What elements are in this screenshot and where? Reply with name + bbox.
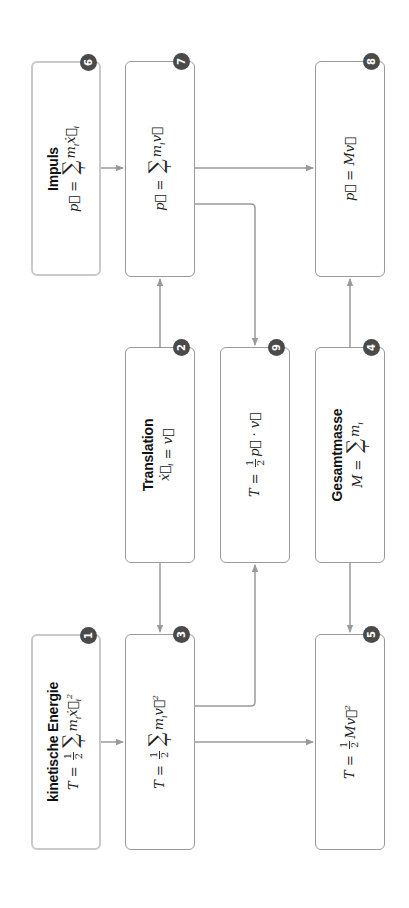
sum-symbol: ∑i xyxy=(345,439,371,453)
box-kinetische-energie: kinetische Energie T = 12 ∑i miẋ⃗i2 1 xyxy=(31,634,101,850)
formula-translation: ẋ⃗i = v⃗ xyxy=(156,429,180,481)
box-kinetic-energy-translation: T = 12 ∑i miv⃗2 3 xyxy=(125,634,195,850)
sum-symbol: ∑i xyxy=(147,159,173,173)
step-badge-4: 4 xyxy=(363,339,380,356)
sum-symbol: ∑i xyxy=(147,732,173,746)
formula-kinetic-energy-total: T = 12 Mv⃗2 xyxy=(339,705,360,779)
box-content: T = 12 Mv⃗2 xyxy=(315,634,385,850)
box-kinetic-energy-total: T = 12 Mv⃗2 5 xyxy=(315,634,385,850)
formula-impulse-definition: p⃗ = ∑i miẋ⃗i xyxy=(61,125,87,211)
step-badge-5: 5 xyxy=(363,626,380,643)
box-content: Translation ẋ⃗i = v⃗ xyxy=(125,347,195,563)
step-badge-6: 6 xyxy=(80,54,97,71)
box-translation: Translation ẋ⃗i = v⃗ 2 xyxy=(125,347,195,563)
fraction-one-half: 12 xyxy=(149,751,170,759)
box-gesamtmasse: Gesamtmasse M = ∑i mi 4 xyxy=(315,347,385,563)
step-badge-9: 9 xyxy=(268,339,285,356)
sum-symbol: ∑i xyxy=(61,160,87,174)
formula-impulse-translation: p⃗ = ∑i miv⃗ xyxy=(147,127,173,211)
box-impuls: Impuls p⃗ = ∑i miẋ⃗i 6 xyxy=(31,61,101,276)
box-content: kinetische Energie T = 12 ∑i miẋ⃗i2 xyxy=(31,634,101,850)
box-title: Translation xyxy=(140,419,156,491)
sum-symbol: ∑i xyxy=(61,734,87,748)
formula-kinetic-energy-translation: T = 12 ∑i miv⃗2 xyxy=(147,695,174,789)
formula-energy-impulse: T = 12 p⃗ · v⃗ xyxy=(245,413,266,497)
box-content: Impuls p⃗ = ∑i miẋ⃗i xyxy=(31,61,101,277)
step-badge-3: 3 xyxy=(173,626,190,643)
box-impulse-translation: p⃗ = ∑i miv⃗ 7 xyxy=(125,61,195,277)
arrow-3-to-9 xyxy=(195,565,255,706)
box-energy-impulse: T = 12 p⃗ · v⃗ 9 xyxy=(220,347,290,563)
step-badge-1: 1 xyxy=(80,627,97,644)
box-content: p⃗ = Mv⃗ xyxy=(315,61,385,277)
fraction-one-half: 12 xyxy=(245,459,266,467)
formula-total-mass: M = ∑i mi xyxy=(345,422,371,488)
fraction-one-half: 12 xyxy=(339,741,360,749)
box-content: T = 12 p⃗ · v⃗ xyxy=(220,347,290,563)
box-content: p⃗ = ∑i miv⃗ xyxy=(125,61,195,277)
formula-total-impulse: p⃗ = Mv⃗ xyxy=(341,137,359,201)
box-total-impulse: p⃗ = Mv⃗ 8 xyxy=(315,61,385,277)
derivation-diagram: Impuls p⃗ = ∑i miẋ⃗i 6 p⃗ = ∑i miv⃗ 7 p… xyxy=(0,0,409,908)
step-badge-7: 7 xyxy=(173,53,190,70)
formula-kinetic-energy-definition: T = 12 ∑i miẋ⃗i2 xyxy=(61,694,88,790)
box-content: Gesamtmasse M = ∑i mi xyxy=(315,347,385,563)
box-content: T = 12 ∑i miv⃗2 xyxy=(125,634,195,850)
fraction-one-half: 12 xyxy=(63,752,84,760)
arrow-7-to-9 xyxy=(195,204,255,345)
step-badge-2: 2 xyxy=(173,339,190,356)
step-badge-8: 8 xyxy=(363,53,380,70)
box-title: Gesamtmasse xyxy=(329,409,345,502)
